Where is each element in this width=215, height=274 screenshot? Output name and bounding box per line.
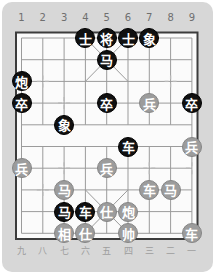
file-label-bottom: 八: [38, 246, 47, 256]
piece-black-horse[interactable]: 马: [97, 50, 117, 70]
piece-red-soldier[interactable]: 兵: [12, 158, 32, 178]
piece-black-cannon[interactable]: 炮: [12, 71, 32, 91]
file-label-top: 8: [167, 13, 173, 23]
file-label-top: 2: [40, 13, 46, 23]
file-label-top: 7: [146, 13, 152, 23]
piece-black-soldier[interactable]: 卒: [97, 93, 117, 113]
file-label-bottom: 五: [102, 246, 111, 256]
piece-red-cannon[interactable]: 炮: [118, 202, 138, 222]
piece-black-horse[interactable]: 马: [54, 202, 74, 222]
file-label-top: 1: [18, 13, 24, 23]
piece-black-elephant[interactable]: 象: [54, 115, 74, 135]
piece-black-advisor[interactable]: 士: [118, 28, 138, 48]
file-label-bottom: 七: [60, 246, 69, 256]
file-label-bottom: 三: [145, 246, 154, 256]
file-label-top: 3: [61, 13, 67, 23]
file-label-top: 9: [189, 13, 195, 23]
piece-red-soldier[interactable]: 兵: [182, 137, 202, 157]
xiangqi-app: 123456789 九八七六五四三二一 士将士象马炮卒卒卒象车马车兵兵兵兵马车马…: [0, 0, 215, 274]
piece-black-chariot[interactable]: 车: [75, 202, 95, 222]
file-label-bottom: 四: [124, 246, 133, 256]
piece-red-horse[interactable]: 马: [161, 180, 181, 200]
piece-black-general[interactable]: 将: [97, 28, 117, 48]
piece-red-soldier[interactable]: 兵: [97, 158, 117, 178]
file-label-bottom: 六: [81, 246, 90, 256]
file-label-top: 4: [82, 13, 88, 23]
file-label-bottom: 一: [187, 246, 196, 256]
file-label-bottom: 九: [17, 246, 26, 256]
file-label-top: 5: [104, 13, 110, 23]
file-label-bottom: 二: [166, 246, 175, 256]
piece-red-advisor[interactable]: 仕: [97, 202, 117, 222]
piece-black-soldier[interactable]: 卒: [182, 93, 202, 113]
piece-black-chariot[interactable]: 车: [118, 137, 138, 157]
piece-black-soldier[interactable]: 卒: [12, 93, 32, 113]
file-label-top: 6: [125, 13, 131, 23]
piece-red-horse[interactable]: 马: [54, 180, 74, 200]
